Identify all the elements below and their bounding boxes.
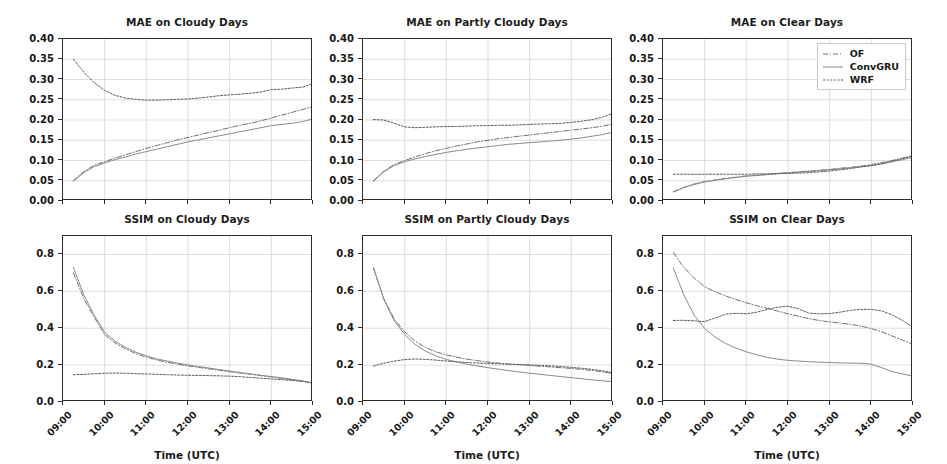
xtick-mark: [745, 401, 746, 405]
panel-ssim-1: SSIM on Partly Cloudy Days0.00.20.40.60.…: [302, 213, 612, 459]
xtick-mark: [404, 401, 405, 405]
xtick-mark: [104, 401, 105, 405]
xtick-mark: [745, 200, 746, 204]
ytick-label: 0.20: [602, 114, 654, 125]
panel-title: MAE on Clear Days: [662, 16, 912, 28]
xtick-mark: [62, 401, 63, 405]
xtick-label: 11:00: [422, 409, 457, 444]
ytick-mark: [358, 253, 362, 254]
chart-legend: OFConvGRUWRF: [817, 43, 906, 90]
ytick-label: 0.15: [602, 134, 654, 145]
ytick-label: 0.05: [302, 174, 354, 185]
ytick-label: 0.35: [2, 53, 54, 64]
xtick-mark: [104, 200, 105, 204]
ytick-mark: [658, 401, 662, 402]
ytick-label: 0.8: [302, 248, 354, 259]
ytick-label: 0.2: [302, 359, 354, 370]
ytick-label: 0.25: [602, 93, 654, 104]
plot-area: [662, 235, 912, 401]
series-line-convgru: [673, 268, 912, 376]
xtick-label: 11:00: [722, 409, 757, 444]
ytick-label: 0.00: [602, 195, 654, 206]
ytick-mark: [58, 159, 62, 160]
ytick-label: 0.25: [302, 93, 354, 104]
ytick-mark: [58, 58, 62, 59]
xtick-mark: [229, 401, 230, 405]
plot-area: [62, 38, 312, 200]
ytick-label: 0.40: [602, 33, 654, 44]
panel-title: SSIM on Cloudy Days: [62, 213, 312, 225]
ytick-mark: [358, 290, 362, 291]
ytick-mark: [58, 200, 62, 201]
ytick-label: 0.6: [302, 285, 354, 296]
ytick-label: 0.6: [2, 285, 54, 296]
xtick-mark: [487, 200, 488, 204]
ytick-label: 0.15: [302, 134, 354, 145]
plot-svg: [363, 39, 612, 200]
xtick-mark: [870, 401, 871, 405]
xtick-mark: [662, 401, 663, 405]
ytick-label: 0.10: [2, 154, 54, 165]
ytick-label: 0.8: [602, 248, 654, 259]
ytick-mark: [358, 179, 362, 180]
plot-svg: [63, 39, 312, 200]
ytick-mark: [58, 38, 62, 39]
xtick-label: 10:00: [381, 409, 416, 444]
ytick-label: 0.00: [302, 195, 354, 206]
xtick-label: 12:00: [764, 409, 799, 444]
plot-svg: [663, 236, 912, 401]
xtick-label: 15:00: [889, 409, 924, 444]
xtick-mark: [270, 401, 271, 405]
ytick-label: 0.40: [2, 33, 54, 44]
ytick-mark: [658, 179, 662, 180]
ytick-label: 0.30: [2, 73, 54, 84]
panel-title: MAE on Partly Cloudy Days: [362, 16, 612, 28]
ytick-label: 0.05: [2, 174, 54, 185]
xtick-mark: [445, 401, 446, 405]
ytick-label: 0.8: [2, 248, 54, 259]
xtick-mark: [404, 200, 405, 204]
series-line-wrf: [373, 359, 612, 373]
legend-entry: ConvGRU: [822, 60, 899, 73]
xtick-mark: [62, 200, 63, 204]
xtick-mark: [829, 401, 830, 405]
ytick-mark: [658, 200, 662, 201]
ytick-label: 0.6: [602, 285, 654, 296]
plot-svg: [363, 236, 612, 401]
ytick-mark: [358, 364, 362, 365]
xtick-mark: [570, 200, 571, 204]
legend-swatch-wrf: [822, 75, 844, 85]
series-line-of: [673, 253, 912, 345]
ytick-mark: [658, 327, 662, 328]
ytick-label: 0.0: [302, 396, 354, 407]
ytick-mark: [658, 290, 662, 291]
ytick-mark: [58, 119, 62, 120]
ytick-label: 0.00: [2, 195, 54, 206]
xtick-label: 09:00: [339, 409, 374, 444]
xtick-label: 10:00: [81, 409, 116, 444]
ytick-label: 0.2: [602, 359, 654, 370]
ytick-label: 0.4: [2, 322, 54, 333]
ytick-mark: [358, 119, 362, 120]
ytick-mark: [658, 38, 662, 39]
series-line-convgru: [373, 267, 612, 381]
legend-swatch-of: [822, 49, 844, 59]
ytick-mark: [658, 78, 662, 79]
ytick-label: 0.20: [2, 114, 54, 125]
ytick-label: 0.0: [602, 396, 654, 407]
plot-svg: [63, 236, 312, 401]
panel-title: MAE on Cloudy Days: [62, 16, 312, 28]
ytick-mark: [658, 159, 662, 160]
ytick-mark: [658, 364, 662, 365]
ytick-mark: [58, 364, 62, 365]
xtick-mark: [829, 200, 830, 204]
xtick-label: 10:00: [681, 409, 716, 444]
ytick-mark: [58, 98, 62, 99]
series-line-of: [373, 268, 612, 373]
ytick-label: 0.0: [2, 396, 54, 407]
xtick-mark: [787, 401, 788, 405]
x-axis-label: Time (UTC): [362, 449, 612, 461]
legend-label: OF: [850, 47, 865, 60]
ytick-label: 0.2: [2, 359, 54, 370]
ytick-mark: [358, 159, 362, 160]
